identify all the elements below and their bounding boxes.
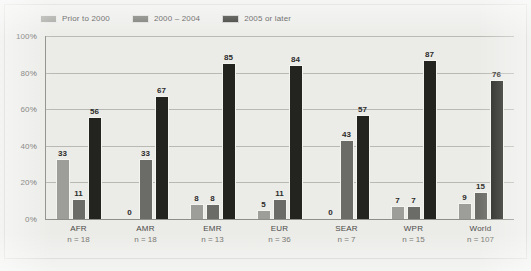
bar-value-label: 87: [425, 51, 434, 59]
x-axis-category-name: AMR: [112, 224, 179, 235]
bar[interactable]: 67: [155, 96, 169, 219]
x-axis-category-name: EUR: [246, 224, 313, 235]
x-axis-category-count: n = 15: [380, 235, 447, 246]
bar-value-label: 8: [194, 195, 198, 203]
bar-group: 8885: [179, 36, 246, 219]
bar-group: 04357: [313, 36, 380, 219]
bar-group: 331156: [45, 36, 112, 219]
x-axis-category-name: EMR: [179, 224, 246, 235]
legend-item-3[interactable]: 2005 or later: [222, 15, 291, 23]
x-axis-category-emr: EMRn = 13: [179, 224, 246, 246]
x-axis-category-count: n = 107: [447, 235, 514, 246]
bar-value-label: 33: [141, 150, 150, 158]
y-axis-tick-label: 20%: [21, 178, 38, 187]
bar[interactable]: 43: [340, 140, 354, 219]
x-axis-category-count: n = 13: [179, 235, 246, 246]
bar-value-label: 11: [275, 190, 283, 198]
x-axis-category-name: WPR: [380, 224, 447, 235]
legend-label: 2000 – 2004: [154, 15, 200, 23]
bar-value-label: 43: [342, 131, 351, 139]
bar[interactable]: 9: [458, 203, 472, 219]
bar-value-label: 67: [157, 87, 166, 95]
x-axis-category-labels: AFRn = 18AMRn = 18EMRn = 13EURn = 36SEAR…: [45, 224, 514, 256]
y-axis-line: [45, 36, 46, 220]
legend-label: Prior to 2000: [62, 15, 110, 23]
bar-value-label: 0: [328, 209, 332, 217]
x-axis-category-afr: AFRn = 18: [45, 224, 112, 246]
bar-value-label: 7: [411, 197, 415, 205]
bar-value-label: 0: [127, 209, 131, 217]
y-axis-tick-label: 60%: [21, 105, 38, 114]
bar-group: 7787: [380, 36, 447, 219]
plot-area: 3311560336788855118404357778791576: [45, 36, 514, 219]
bar-group: 03367: [112, 36, 179, 219]
y-axis-tick-label: 40%: [21, 141, 38, 150]
bar[interactable]: 11: [72, 199, 86, 219]
bar-value-label: 11: [74, 190, 82, 198]
bar-value-label: 15: [476, 183, 485, 191]
bar[interactable]: 87: [423, 60, 437, 219]
x-axis-category-eur: EURn = 36: [246, 224, 313, 246]
x-axis-category-wpr: WPRn = 15: [380, 224, 447, 246]
bar-group: 91576: [447, 36, 514, 219]
x-axis-category-amr: AMRn = 18: [112, 224, 179, 246]
x-axis-category-count: n = 36: [246, 235, 313, 246]
bar[interactable]: 8: [190, 204, 204, 219]
bar-value-label: 5: [261, 201, 265, 209]
bar[interactable]: 33: [56, 159, 70, 219]
x-axis-category-sear: SEARn = 7: [313, 224, 380, 246]
bar-value-label: 76: [492, 71, 501, 79]
bar-value-label: 33: [58, 150, 67, 158]
y-axis-tick-label: 100%: [16, 32, 37, 41]
bar[interactable]: 85: [222, 63, 236, 219]
x-axis-category-name: World: [447, 224, 514, 235]
bar[interactable]: 8: [206, 204, 220, 219]
bar[interactable]: 56: [88, 117, 102, 219]
bar[interactable]: 7: [391, 206, 405, 219]
y-axis-tick-label: 80%: [21, 68, 38, 77]
bar-value-label: 84: [291, 56, 300, 64]
x-axis-category-world: Worldn = 107: [447, 224, 514, 246]
bar[interactable]: 5: [257, 210, 271, 219]
axis-baseline: [45, 219, 514, 220]
y-axis-tick-labels: 0%20%40%60%80%100%: [0, 36, 42, 219]
legend-swatch-icon: [40, 15, 57, 23]
bar[interactable]: 11: [273, 199, 287, 219]
bar-group: 51184: [246, 36, 313, 219]
bar-value-label: 7: [395, 197, 399, 205]
bar-value-label: 9: [462, 194, 466, 202]
bar-value-label: 85: [224, 54, 233, 62]
legend-label: 2005 or later: [244, 15, 291, 23]
bar-value-label: 8: [210, 195, 214, 203]
y-axis-tick-label: 0%: [25, 215, 37, 224]
legend-swatch-icon: [222, 15, 239, 23]
x-axis-category-count: n = 7: [313, 235, 380, 246]
bar[interactable]: 33: [139, 159, 153, 219]
bars-layer: 3311560336788855118404357778791576: [45, 36, 514, 219]
bar-value-label: 56: [90, 108, 99, 116]
x-axis-category-count: n = 18: [45, 235, 112, 246]
x-axis-category-name: SEAR: [313, 224, 380, 235]
x-axis-category-name: AFR: [45, 224, 112, 235]
bar[interactable]: 57: [356, 115, 370, 219]
bar[interactable]: 15: [474, 192, 488, 219]
bar[interactable]: 7: [407, 206, 421, 219]
bar-value-label: 57: [358, 106, 367, 114]
bar[interactable]: 76: [490, 80, 504, 219]
chart-figure: Prior to 20002000 – 20042005 or later 0%…: [0, 0, 531, 271]
bar[interactable]: 84: [289, 65, 303, 219]
legend-swatch-icon: [132, 15, 149, 23]
legend-item-1[interactable]: Prior to 2000: [40, 15, 110, 23]
legend-item-2[interactable]: 2000 – 2004: [132, 15, 200, 23]
x-axis-category-count: n = 18: [112, 235, 179, 246]
chart-legend: Prior to 20002000 – 20042005 or later: [40, 13, 291, 25]
